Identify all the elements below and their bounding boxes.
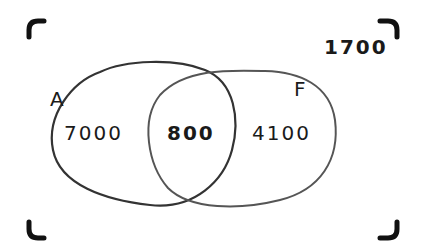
set-a-label: A bbox=[50, 87, 64, 111]
frame-corner-bottom-right bbox=[380, 222, 397, 238]
a-only-value: 7000 bbox=[64, 121, 123, 145]
venn-diagram: A F 7000 800 4100 1700 bbox=[0, 0, 423, 249]
outside-value: 1700 bbox=[324, 35, 388, 59]
set-f-label: F bbox=[294, 77, 306, 101]
f-only-value: 4100 bbox=[252, 121, 311, 145]
intersection-value: 800 bbox=[167, 121, 215, 145]
frame-corner-bottom-left bbox=[29, 222, 44, 238]
frame-corner-top-left bbox=[29, 21, 44, 37]
